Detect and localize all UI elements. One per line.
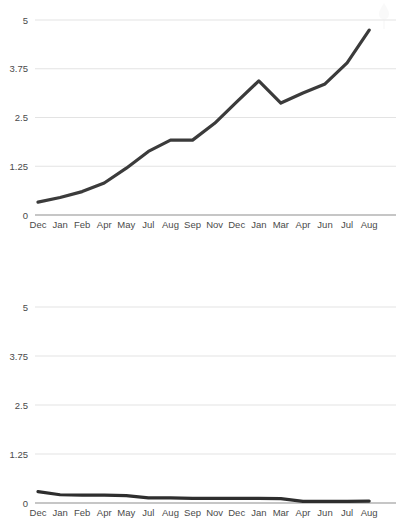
y-axis-tick-label: 1.25 (10, 161, 29, 172)
bottom-line-chart: 01.252.53.755DecJanFebAprMayJulAugSepNov… (0, 262, 404, 525)
x-axis-tick-label: Dec (30, 219, 47, 230)
x-axis-tick-label: Sep (184, 219, 201, 230)
x-axis-tick-label: Jun (317, 219, 332, 230)
y-axis-tick-label: 3.75 (10, 63, 29, 74)
x-axis-tick-label: Nov (206, 219, 223, 230)
x-axis-tick-label: Feb (74, 507, 90, 518)
x-axis-tick-label: Dec (228, 507, 245, 518)
x-axis-tick-label: Jul (142, 219, 154, 230)
x-axis-tick-label: May (117, 507, 135, 518)
x-axis-tick-label: Jun (317, 507, 332, 518)
data-line-series (38, 30, 369, 202)
y-axis-tick-label: 5 (23, 302, 28, 313)
y-axis-tick-label: 0 (23, 498, 28, 509)
x-axis-tick-label: Dec (228, 219, 245, 230)
x-axis-tick-label: Apr (97, 507, 112, 518)
x-axis-tick-label: Jul (341, 219, 353, 230)
x-axis-tick-label: Dec (30, 507, 47, 518)
x-axis-tick-label: Jan (251, 507, 266, 518)
x-axis-tick-label: Jul (341, 507, 353, 518)
y-axis-tick-label: 2.5 (15, 112, 28, 123)
x-axis-tick-label: Jul (142, 507, 154, 518)
x-axis-tick-label: Apr (296, 219, 311, 230)
x-axis-tick-label: Sep (184, 507, 201, 518)
x-axis-tick-label: May (117, 219, 135, 230)
y-axis-tick-label: 5 (23, 15, 28, 26)
x-axis-tick-label: Aug (361, 219, 378, 230)
y-axis-tick-label: 1.25 (10, 449, 29, 460)
x-axis-tick-label: Nov (206, 507, 223, 518)
y-axis-tick-label: 0 (23, 210, 28, 221)
top-line-chart: 01.252.53.755DecJanFebAprMayJulAugSepNov… (0, 0, 404, 262)
x-axis-tick-label: Aug (162, 219, 179, 230)
x-axis-tick-label: Apr (97, 219, 112, 230)
bottom-chart-panel: 01.252.53.755DecJanFebAprMayJulAugSepNov… (0, 262, 404, 525)
top-chart-panel: 01.252.53.755DecJanFebAprMayJulAugSepNov… (0, 0, 404, 262)
y-axis-tick-label: 2.5 (15, 400, 28, 411)
x-axis-tick-label: Apr (296, 507, 311, 518)
x-axis-tick-label: Mar (273, 507, 289, 518)
x-axis-tick-label: Jan (52, 219, 67, 230)
y-axis-tick-label: 3.75 (10, 351, 29, 362)
data-line-series (38, 492, 369, 502)
x-axis-tick-label: Aug (162, 507, 179, 518)
x-axis-tick-label: Jan (251, 219, 266, 230)
x-axis-tick-label: Aug (361, 507, 378, 518)
x-axis-tick-label: Feb (74, 219, 90, 230)
x-axis-tick-label: Jan (52, 507, 67, 518)
x-axis-tick-label: Mar (273, 219, 289, 230)
bottom-chart-plot-area: 01.252.53.755DecJanFebAprMayJulAugSepNov… (0, 262, 404, 525)
top-chart-plot-area: 01.252.53.755DecJanFebAprMayJulAugSepNov… (0, 0, 404, 262)
chart-stack: 01.252.53.755DecJanFebAprMayJulAugSepNov… (0, 0, 404, 525)
